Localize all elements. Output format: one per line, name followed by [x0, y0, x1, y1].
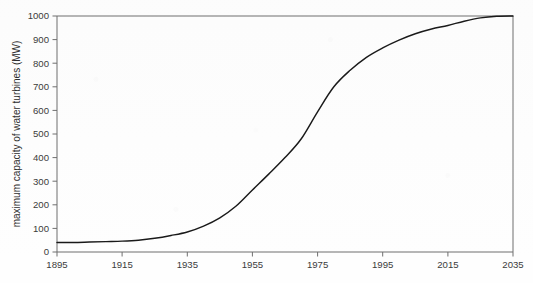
y-tick-label: 400 — [33, 152, 49, 163]
y-tick-label: 200 — [33, 199, 49, 210]
y-tick-label: 300 — [33, 176, 49, 187]
y-tick-label: 100 — [33, 223, 49, 234]
chart-figure: 0 100 200 300 400 500 600 700 800 900 10… — [0, 0, 533, 283]
y-tick-label: 1000 — [28, 10, 49, 21]
x-tick-label: 1915 — [111, 259, 132, 270]
x-tick-label: 1935 — [177, 259, 198, 270]
y-tick-label: 600 — [33, 105, 49, 116]
x-tick-label: 1955 — [242, 259, 263, 270]
y-axis-title-group: maximum capacity of water turbines (MW) — [11, 41, 22, 228]
x-axis-tick-labels: 1895 1915 1935 1955 1975 1995 2015 2035 — [46, 259, 523, 270]
data-curve-line — [57, 16, 513, 243]
line-chart: 0 100 200 300 400 500 600 700 800 900 10… — [0, 0, 533, 283]
plot-frame — [57, 16, 513, 252]
x-tick-label: 2035 — [502, 259, 523, 270]
x-tick-label: 1995 — [372, 259, 393, 270]
data-series-group — [57, 16, 513, 243]
y-tick-label: 900 — [33, 34, 49, 45]
y-tick-label: 800 — [33, 58, 49, 69]
x-tick-label: 2015 — [437, 259, 458, 270]
y-axis-title: maximum capacity of water turbines (MW) — [11, 41, 22, 228]
y-axis-ticks — [53, 16, 58, 252]
y-tick-label: 0 — [44, 246, 49, 257]
x-tick-label: 1975 — [307, 259, 328, 270]
x-tick-label: 1895 — [46, 259, 67, 270]
y-tick-label: 700 — [33, 81, 49, 92]
x-axis-ticks — [57, 252, 513, 257]
y-axis-tick-labels: 0 100 200 300 400 500 600 700 800 900 10… — [28, 10, 49, 257]
y-tick-label: 500 — [33, 128, 49, 139]
